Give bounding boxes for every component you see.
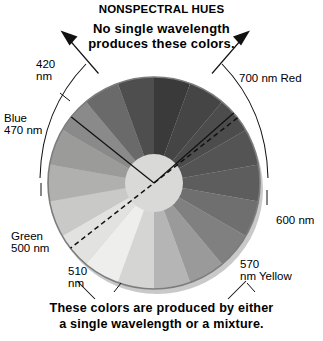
label-420nm: 420 nm bbox=[36, 58, 55, 83]
label-red-700nm: 700 nm Red bbox=[239, 72, 302, 84]
label-yellow-570nm: 570 nm Yellow bbox=[240, 258, 292, 283]
caption-line2: a single wavelength or a mixture. bbox=[0, 317, 323, 331]
label-blue-470nm: Blue 470 nm bbox=[4, 112, 42, 137]
label-600nm: 600 nm bbox=[276, 214, 314, 226]
figure-canvas: NONSPECTRAL HUES No single wavelength pr… bbox=[0, 0, 323, 341]
leader-yellow bbox=[247, 283, 255, 292]
label-green-500nm: Green 500 nm bbox=[11, 230, 49, 255]
caption-line1: These colors are produced by either bbox=[0, 301, 323, 315]
arrow-head-left-icon bbox=[61, 31, 78, 46]
color-wheel-diagram bbox=[0, 0, 323, 341]
arrow-head-right-icon bbox=[233, 31, 250, 46]
caption-leader-right bbox=[228, 281, 246, 299]
label-510nm: 510 nm bbox=[68, 265, 87, 290]
